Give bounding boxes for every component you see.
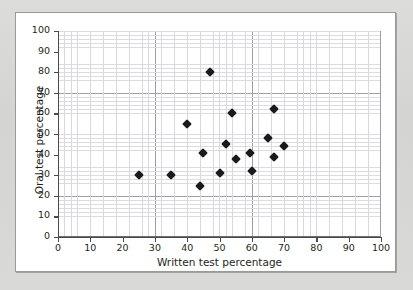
x-tick-label: 80 (310, 242, 322, 253)
y-tick (54, 155, 58, 156)
x-tick-label: 70 (278, 242, 290, 253)
x-axis-title: Written test percentage (58, 256, 381, 268)
data-point (205, 67, 215, 77)
chart-card: 0102030405060708090100 01020304050607080… (15, 12, 396, 272)
data-point (227, 108, 237, 118)
data-point (195, 181, 205, 191)
y-tick (54, 134, 58, 135)
data-point (269, 104, 279, 114)
y-axis-title: Oral test percentage (33, 55, 45, 225)
y-tick (54, 196, 58, 197)
x-tick-label: 60 (246, 242, 258, 253)
x-tick-label: 100 (372, 242, 390, 253)
data-point (245, 148, 255, 158)
data-point (134, 170, 144, 180)
scatter-plot-figure: 0102030405060708090100 01020304050607080… (16, 13, 395, 271)
y-tick (54, 113, 58, 114)
data-point (198, 148, 208, 158)
data-point (247, 166, 257, 176)
plot-area (58, 31, 381, 237)
x-tick-label: 40 (181, 242, 193, 253)
data-point (215, 168, 225, 178)
y-axis-line (58, 31, 59, 238)
x-tick-label: 50 (213, 242, 225, 253)
x-tick-label: 0 (55, 242, 61, 253)
data-point (263, 133, 273, 143)
data-point (221, 139, 231, 149)
y-tick (54, 52, 58, 53)
y-tick (54, 31, 58, 32)
data-point (166, 170, 176, 180)
x-tick-label: 90 (343, 242, 355, 253)
y-tick (54, 72, 58, 73)
x-tick-label: 20 (117, 242, 129, 253)
data-point (269, 152, 279, 162)
x-tick-label: 30 (149, 242, 161, 253)
screenshot-root: 0102030405060708090100 01020304050607080… (0, 0, 413, 290)
x-tick-label: 10 (84, 242, 96, 253)
data-point (279, 141, 289, 151)
y-tick (54, 93, 58, 94)
data-point (231, 154, 241, 164)
data-point (182, 119, 192, 129)
y-tick (54, 175, 58, 176)
y-tick (54, 216, 58, 217)
